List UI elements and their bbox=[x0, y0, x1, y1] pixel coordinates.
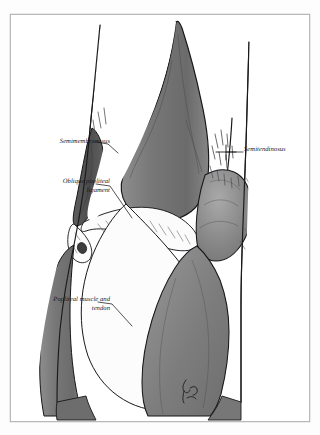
label-semitendinosus: Semitendinosus bbox=[244, 146, 318, 155]
label-popliteal-muscle-and-tendon-line2: tendon bbox=[92, 305, 110, 312]
label-oblique-popliteal-ligament-line2: ligament bbox=[87, 187, 110, 194]
anatomical-illustration bbox=[0, 0, 320, 435]
upper-lateral-gap bbox=[244, 15, 309, 421]
label-semimembranosus: Semimembranosus bbox=[16, 138, 110, 147]
label-oblique-popliteal-ligament: Oblique poplitealligament bbox=[16, 178, 110, 195]
figure-root: Semimembranosus Oblique poplitealligamen… bbox=[0, 0, 320, 435]
label-popliteal-muscle-and-tendon: Popliteal muscle andtendon bbox=[12, 296, 110, 313]
label-oblique-popliteal-ligament-line1: Oblique popliteal bbox=[63, 178, 110, 185]
label-popliteal-muscle-and-tendon-line1: Popliteal muscle and bbox=[53, 296, 110, 303]
